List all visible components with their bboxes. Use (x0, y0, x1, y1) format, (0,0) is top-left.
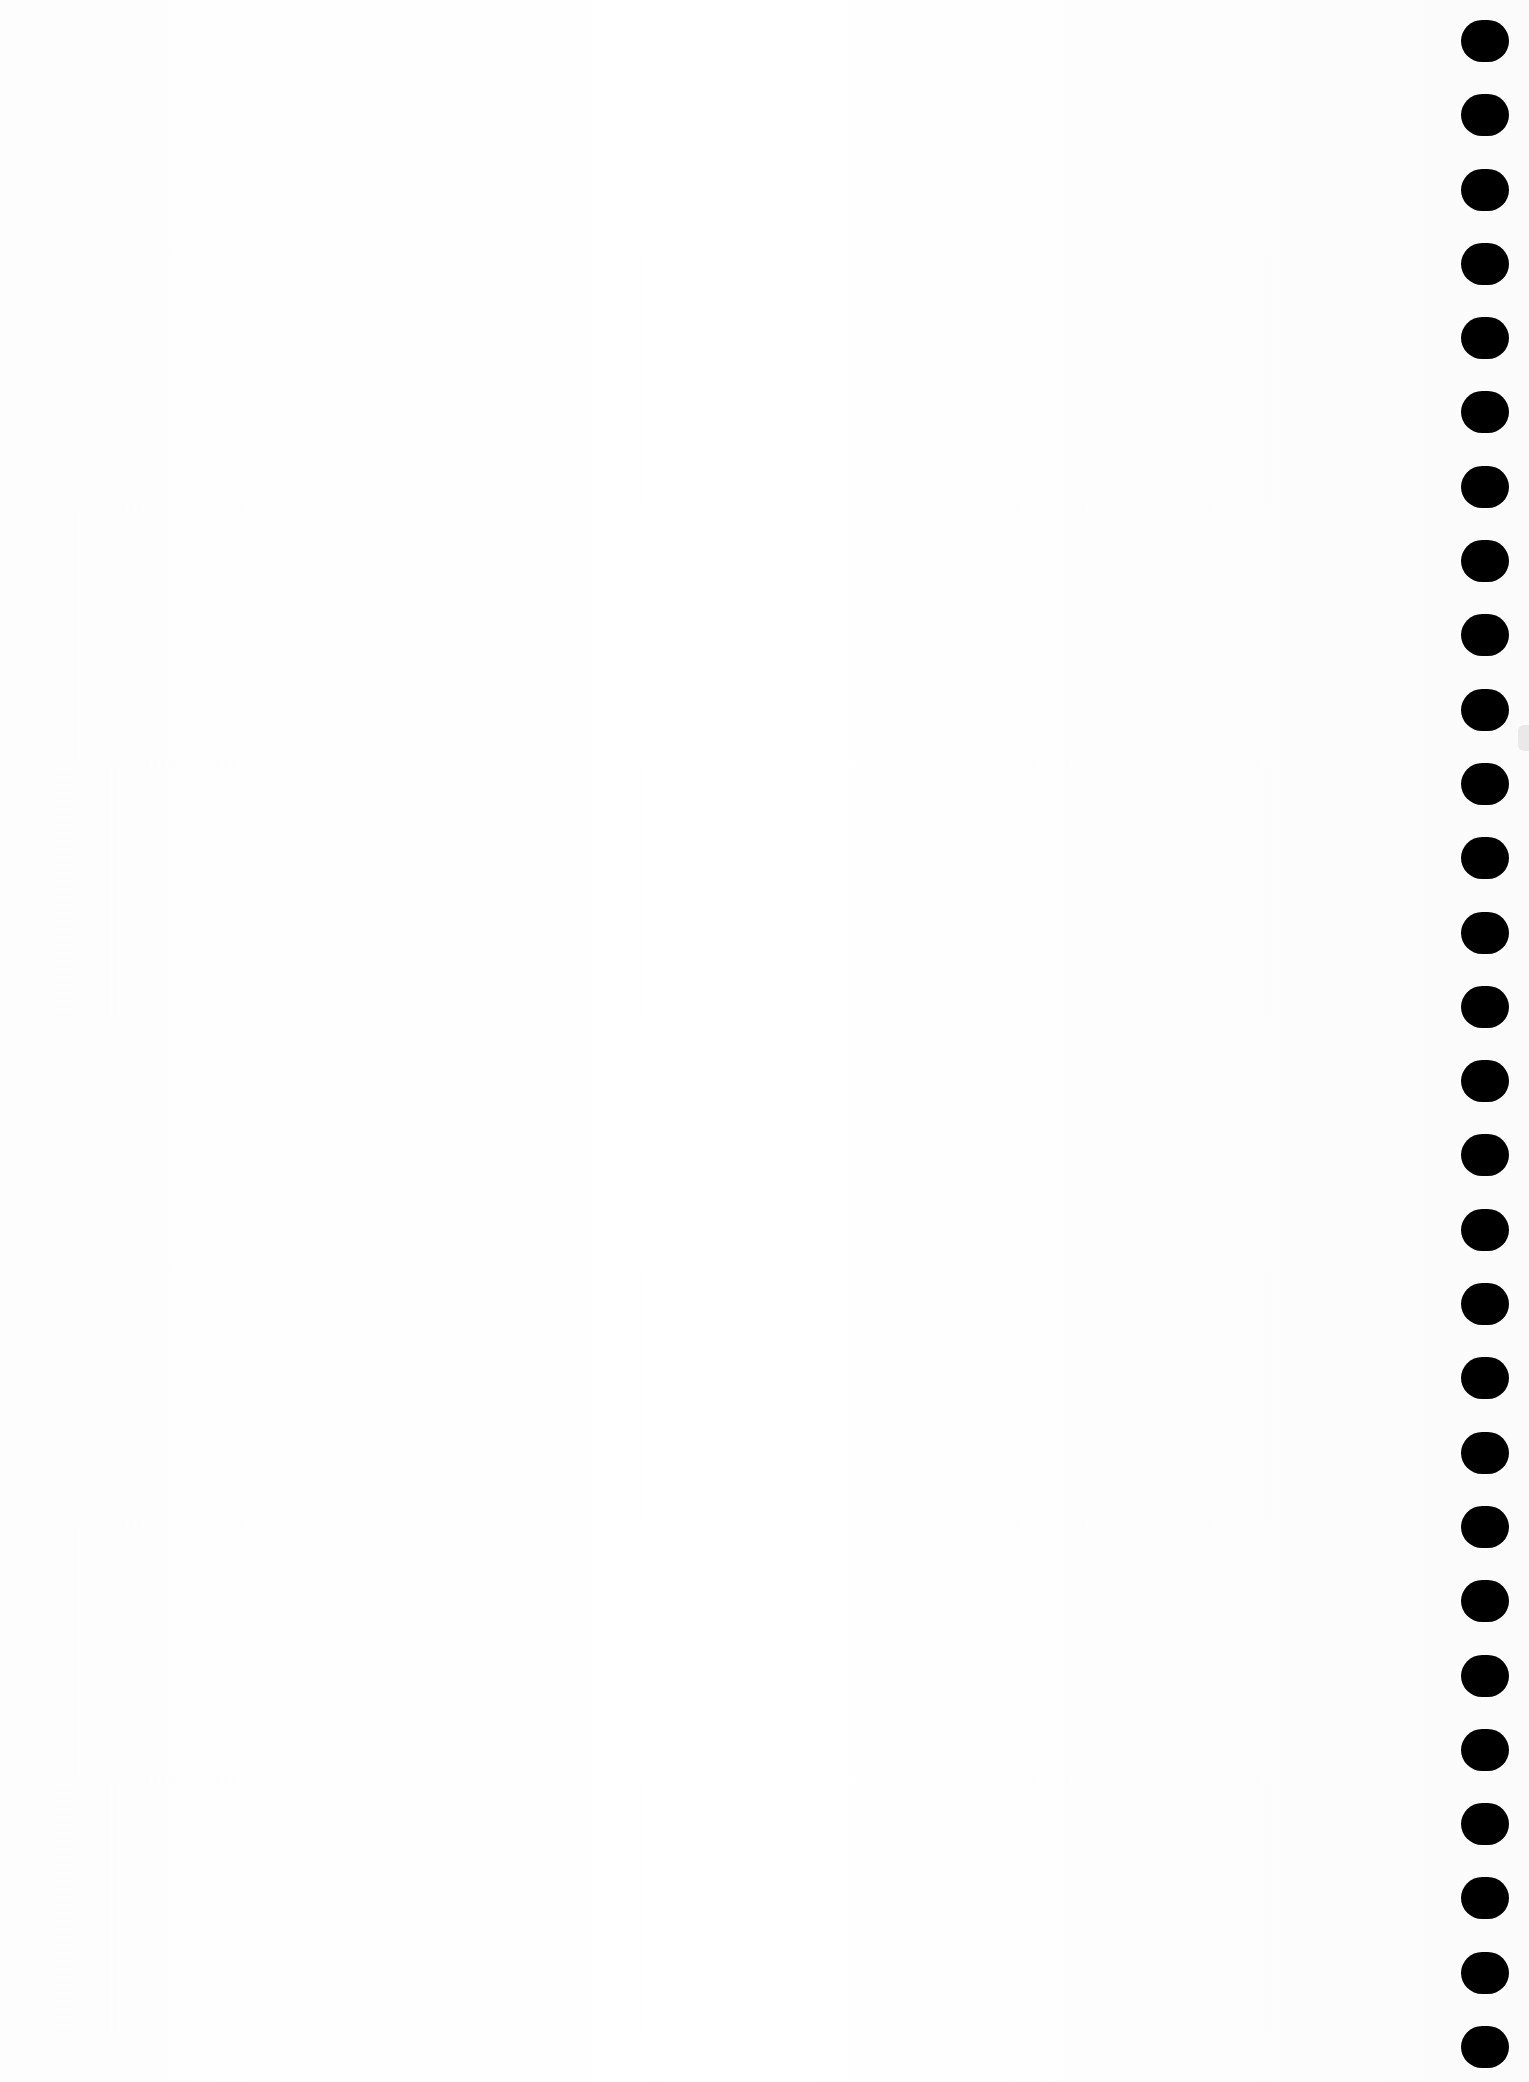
binding-hole (1461, 763, 1509, 805)
binding-hole (1461, 1803, 1509, 1845)
binding-hole (1461, 169, 1509, 211)
binding-hole (1461, 1506, 1509, 1548)
binding-hole (1461, 689, 1509, 731)
binding-hole (1461, 540, 1509, 582)
binding-hole (1461, 1877, 1509, 1919)
binding-hole (1461, 986, 1509, 1028)
binding-hole (1461, 614, 1509, 656)
binding-hole (1461, 1580, 1509, 1622)
binding-hole (1461, 1060, 1509, 1102)
binding-hole (1461, 1357, 1509, 1399)
binding-hole (1461, 391, 1509, 433)
binding-hole (1461, 837, 1509, 879)
binding-hole (1461, 1952, 1509, 1994)
notebook-page (0, 0, 1529, 2082)
binding-hole (1461, 1283, 1509, 1325)
binding-hole (1461, 466, 1509, 508)
binding-hole (1461, 243, 1509, 285)
binding-hole (1461, 912, 1509, 954)
binding-hole (1461, 2026, 1509, 2068)
binding-hole (1461, 317, 1509, 359)
spiral-binding-holes (1461, 0, 1509, 2082)
binding-hole (1461, 1209, 1509, 1251)
binding-hole (1461, 1134, 1509, 1176)
binding-hole (1461, 1655, 1509, 1697)
page-edge-mark (1518, 725, 1529, 751)
binding-hole (1461, 1432, 1509, 1474)
binding-hole (1461, 94, 1509, 136)
binding-hole (1461, 1729, 1509, 1771)
binding-hole (1461, 20, 1509, 62)
